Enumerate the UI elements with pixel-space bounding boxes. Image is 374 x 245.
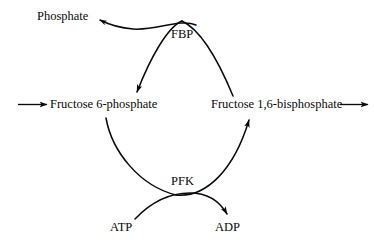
atp-adp-arc (135, 193, 227, 219)
pathway-diagram: Phosphate FBP Fructose 6-phosphate Fruct… (0, 0, 374, 245)
pfk-arc-from-f6p (106, 118, 176, 195)
label-pfk-enzyme: PFK (171, 175, 194, 188)
label-adp: ADP (215, 221, 240, 234)
label-fructose-6-phosphate: Fructose 6-phosphate (50, 98, 157, 111)
label-atp: ATP (110, 221, 132, 234)
label-fructose-1-6-bisphosphate: Fructose 1,6-bisphosphate (211, 98, 342, 111)
label-fbp-enzyme: FBP (171, 28, 193, 41)
label-phosphate: Phosphate (37, 10, 88, 23)
